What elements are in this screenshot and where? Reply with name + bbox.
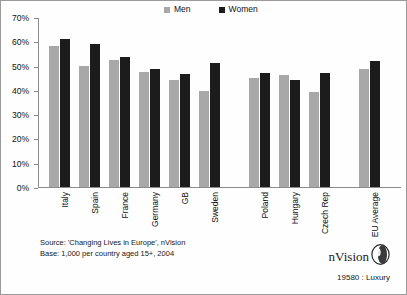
y-tick-mark: [34, 188, 38, 189]
y-axis-label: 0%: [17, 184, 29, 193]
source-note: Source: 'Changing Lives in Europe', nVis…: [40, 237, 185, 248]
brand-code: 19580 : Luxury: [329, 273, 390, 283]
bar-men-italy: [49, 46, 59, 187]
bar-men-poland: [249, 78, 259, 187]
y-tick-mark: [34, 91, 38, 92]
chart-footnotes: Source: 'Changing Lives in Europe', nVis…: [40, 237, 185, 259]
bar-group: [49, 18, 70, 187]
legend-label: Women: [229, 5, 258, 14]
bar-group: [359, 18, 380, 187]
bar-women-czech-rep: [320, 73, 330, 187]
bar-men-gb: [169, 80, 179, 187]
bar-men-france: [109, 60, 119, 188]
bar-group: [169, 18, 190, 187]
ring-sphere-icon: [371, 244, 390, 269]
y-tick-mark: [34, 67, 38, 68]
y-axis-label: 10%: [12, 159, 29, 168]
bar-women-poland: [260, 73, 270, 187]
chart-frame: MenWomen 0%10%20%30%40%50%60%70% ItalySp…: [0, 0, 407, 295]
bar-group: [199, 18, 220, 187]
x-axis-label: Italy: [61, 192, 70, 208]
bar-men-eu-average: [359, 69, 369, 187]
x-axis-label: Poland: [261, 192, 270, 218]
bar-men-spain: [79, 66, 89, 187]
x-axis-label: Hungary: [291, 192, 300, 224]
x-axis-label: Spain: [91, 192, 100, 214]
bar-group: [79, 18, 100, 187]
legend-swatch-women: [219, 7, 225, 13]
y-tick-mark: [34, 115, 38, 116]
bar-group: [139, 18, 160, 187]
y-axis-label: 60%: [12, 38, 29, 47]
y-tick-mark: [34, 42, 38, 43]
x-axis-line: [38, 187, 401, 188]
x-axis-label: Czech Rep: [321, 192, 330, 234]
legend-swatch-men: [164, 7, 170, 13]
bar-women-germany: [150, 69, 160, 187]
legend-entry-women: Women: [219, 5, 258, 14]
x-axis-label: Sweden: [211, 192, 220, 223]
x-axis-label: EU Average: [371, 192, 380, 237]
legend-entry-men: Men: [164, 5, 191, 14]
legend-label: Men: [174, 5, 191, 14]
brand-name: nVision: [329, 250, 369, 264]
bar-women-gb: [180, 74, 190, 187]
y-tick-mark: [34, 18, 38, 19]
y-axis-label: 30%: [12, 111, 29, 120]
bar-women-france: [120, 57, 130, 187]
bar-women-sweden: [210, 63, 220, 187]
plot-area: 0%10%20%30%40%50%60%70% ItalySpainFrance…: [38, 18, 401, 188]
base-note: Base: 1,000 per country aged 15+, 2004: [40, 248, 185, 259]
bar-series-container: [39, 18, 401, 187]
y-tick-mark: [34, 164, 38, 165]
bar-women-eu-average: [370, 61, 380, 187]
bar-men-sweden: [199, 91, 209, 187]
bar-women-italy: [60, 39, 70, 187]
bar-group: [249, 18, 270, 187]
y-tick-mark: [34, 139, 38, 140]
chart-legend: MenWomen: [164, 5, 258, 14]
x-axis-label: GB: [181, 192, 190, 204]
y-axis-label: 40%: [12, 86, 29, 95]
bar-men-hungary: [279, 75, 289, 187]
x-axis-label: Germany: [151, 192, 160, 227]
bar-women-hungary: [290, 80, 300, 187]
bar-women-spain: [90, 44, 100, 187]
bar-group: [279, 18, 300, 187]
bar-group: [309, 18, 330, 187]
y-axis-label: 20%: [12, 135, 29, 144]
x-axis-label: France: [121, 192, 130, 218]
branding-block: nVision 19580 : Luxury: [329, 244, 390, 283]
bar-men-czech-rep: [309, 92, 319, 187]
bar-men-germany: [139, 72, 149, 187]
y-axis-label: 50%: [12, 62, 29, 71]
y-axis-label: 70%: [12, 14, 29, 23]
bar-group: [109, 18, 130, 187]
